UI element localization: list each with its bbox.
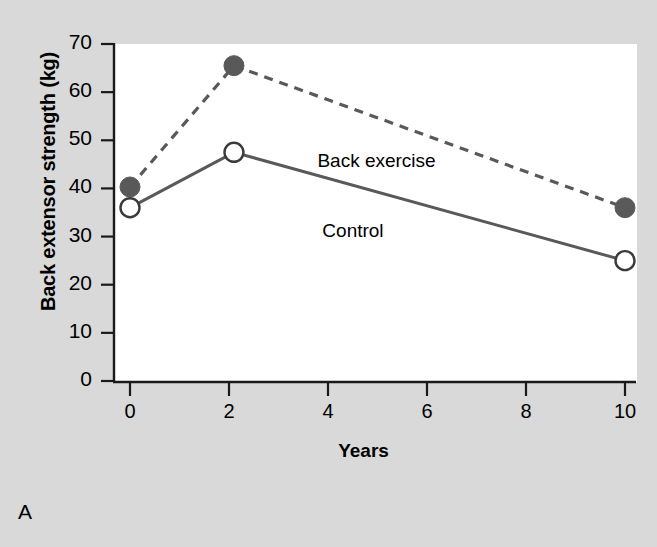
y-axis-ticks (101, 44, 114, 381)
panel-letter: A (18, 500, 32, 524)
data-point-open (224, 143, 243, 162)
x-tick-label: 4 (308, 400, 348, 423)
data-point-filled (120, 177, 140, 197)
figure-panel-a: Back extensor strength (kg) Years 010203… (0, 0, 657, 547)
y-tick-label: 70 (48, 30, 92, 54)
x-tick-label: 10 (605, 400, 645, 423)
y-tick-label: 30 (48, 223, 92, 247)
x-tick-label: 0 (110, 400, 150, 423)
x-tick-label: 8 (506, 400, 546, 423)
y-tick-label: 20 (48, 271, 92, 295)
x-tick-label: 2 (209, 400, 249, 423)
y-tick-label: 60 (48, 78, 92, 102)
series-annotation: Back exercise (317, 150, 435, 172)
y-tick-label: 10 (48, 319, 92, 343)
data-point-filled (615, 198, 635, 218)
data-point-open (121, 198, 140, 217)
y-tick-label: 50 (48, 126, 92, 150)
x-axis-ticks (130, 382, 625, 396)
y-tick-label: 0 (48, 367, 92, 391)
x-tick-label: 6 (407, 400, 447, 423)
data-point-filled (224, 56, 244, 76)
data-point-open (616, 251, 635, 270)
series-annotation: Control (322, 220, 383, 242)
series-line (130, 66, 625, 208)
y-tick-label: 40 (48, 174, 92, 198)
chart-svg (0, 0, 657, 547)
